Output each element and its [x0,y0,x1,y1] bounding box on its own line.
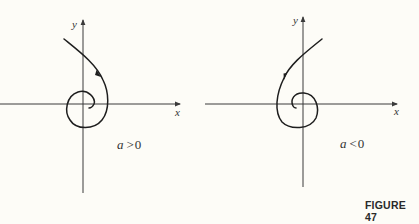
y-axis-label-left: y [71,18,77,30]
panel-left: x y a>0 [0,18,180,193]
spiral-trajectory-right [277,39,322,128]
condition-label-left: a>0 [117,137,141,152]
figure-canvas: x y a>0 x y a<0 [0,0,419,224]
figure-caption: FIGURE 47 [365,199,419,223]
panel-right: x y a<0 [205,14,399,187]
y-axis-label-right: y [292,14,298,26]
x-axis-label-left: x [174,106,180,118]
spiral-trajectory-left [64,39,108,128]
x-axis-label-right: x [393,105,399,117]
direction-arrow-right-icon [284,73,288,80]
condition-label-right: a<0 [340,136,364,151]
